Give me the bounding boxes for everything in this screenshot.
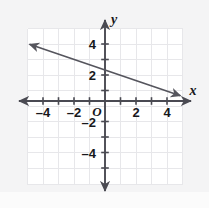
y-axis-label: y	[109, 12, 118, 27]
coordinate-plane-figure: –4 –2 2 4 4 2 –2 –4 O x y	[0, 0, 209, 208]
figure-bottom-margin	[0, 192, 209, 208]
origin-label: O	[92, 104, 102, 119]
x-axis-label: x	[189, 83, 197, 98]
x-tick-label-2: 2	[132, 105, 139, 120]
y-tick-label-2: 2	[89, 68, 96, 83]
y-tick-label--4: –4	[82, 146, 97, 161]
y-tick-label-4: 4	[89, 37, 97, 52]
x-tick-label-4: 4	[163, 105, 171, 120]
graph-canvas: –4 –2 2 4 4 2 –2 –4 O x y	[0, 0, 209, 208]
x-tick-label--4: –4	[36, 105, 51, 120]
x-tick-label--2: –2	[67, 105, 81, 120]
